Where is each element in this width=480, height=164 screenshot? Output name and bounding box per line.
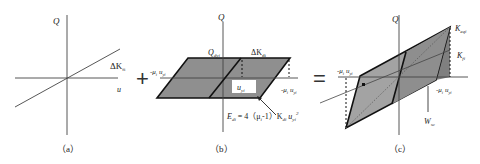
equals-operator: = [313, 66, 326, 91]
panel-b-q-label: Q [218, 12, 225, 22]
panel-c-wsc-label: Wsc [424, 117, 436, 127]
panel-c-marker [362, 83, 365, 86]
panel-b-caption: （b） [210, 144, 233, 154]
panel-c-kf-label: Kfi [456, 51, 466, 61]
panel-a-u-label: u [117, 85, 121, 94]
panel-a-dk-label: ΔKfi [110, 61, 126, 72]
panel-b: uyi Qdyi ΔKdi Q -μi uyi -μi uyi Edi = 4（… [150, 12, 299, 154]
panel-a: Q ΔKfi u （a） [15, 15, 126, 154]
panel-c-caption: （c） [389, 144, 411, 154]
panel-a-q-label: Q [53, 16, 60, 26]
panel-a-caption: （a） [57, 144, 79, 154]
panel-c-right-axis-label: -μi uyi [436, 86, 452, 95]
panel-c-q-label: Q [392, 14, 399, 24]
panel-c: Q Keqi Kfi -μi uyi -μi uyi Wsc （c） [320, 14, 468, 154]
panel-b-dkdi-label: ΔKdi [251, 48, 266, 58]
plus-operator: + [136, 66, 149, 91]
panel-b-right-label: -μi uyi [281, 86, 297, 95]
panel-b-energy-formula: Edi = 4（μi-1）Kdi uyi2 [226, 111, 299, 122]
panel-b-left-label: -μi uyi [150, 68, 166, 77]
hysteresis-diagram: Q ΔKfi u （a） + uyi Qdyi ΔKdi Q -μi uyi -… [0, 0, 480, 164]
panel-c-left-label: -μi uyi [337, 67, 353, 76]
panel-c-keq-label: Keqi [454, 24, 467, 34]
panel-b-qdyi-label: Qdyi [208, 48, 221, 58]
